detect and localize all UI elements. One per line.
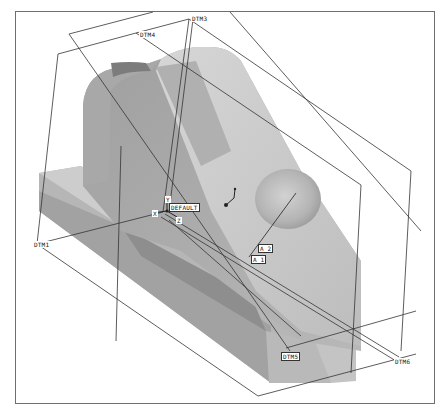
datum-label-dtm1[interactable]: DTM1 <box>33 241 50 248</box>
csys-label-default[interactable]: DEFAULT <box>169 203 200 212</box>
model-canvas[interactable] <box>15 11 435 404</box>
cad-viewport[interactable]: DTM3 DTM4 DTM1 DTM5 DTM6 DEFAULT X Y Z A… <box>15 11 435 404</box>
csys-axis-label-y: Y <box>165 196 171 203</box>
datum-label-dtm5[interactable]: DTM5 <box>281 352 300 361</box>
datum-label-dtm3[interactable]: DTM3 <box>191 15 208 22</box>
datum-label-dtm4[interactable]: DTM4 <box>139 31 156 38</box>
axis-label-a2[interactable]: A_2 <box>258 244 273 253</box>
axis-label-a1[interactable]: A_1 <box>251 255 266 264</box>
hole[interactable] <box>255 169 321 229</box>
csys-axis-label-x: X <box>152 210 158 217</box>
datum-label-dtm6[interactable]: DTM6 <box>394 358 411 365</box>
csys-axis-label-z: Z <box>176 217 182 224</box>
